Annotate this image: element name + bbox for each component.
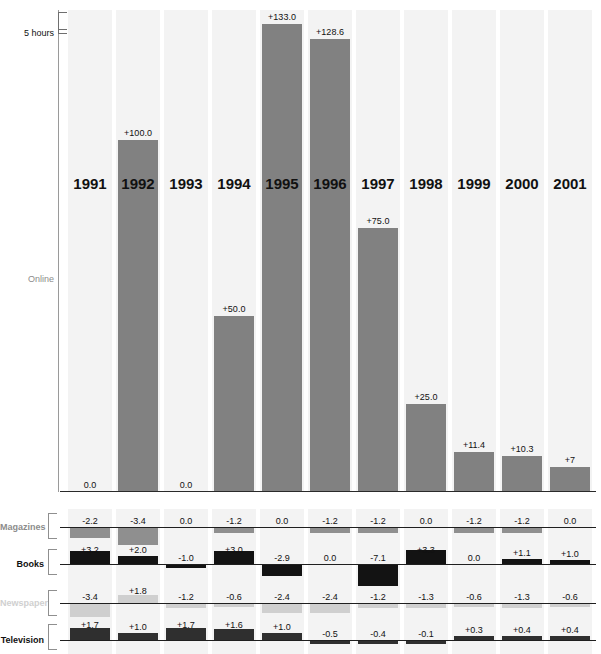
bar-online-1998[interactable] [406,404,446,492]
value-label-television-2000: +0.4 [498,625,546,635]
value-label-books-1994: +3.0 [210,545,258,555]
value-label-books-2000: +1.1 [498,548,546,558]
value-label-newspaper-2000: -1.3 [498,592,546,602]
year-label-2001: 2001 [546,175,594,192]
bar-online-2001[interactable] [550,467,590,492]
value-label-online-1997: +75.0 [354,216,402,226]
row-label-books: Books [0,559,44,569]
bar-magazines-1992[interactable] [118,527,158,545]
year-label-2000: 2000 [498,175,546,192]
year-label-1999: 1999 [450,175,498,192]
value-label-books-1999: 0.0 [450,553,498,563]
zero-line-television [60,640,596,641]
value-label-online-1996: +128.6 [306,27,354,37]
bar-magazines-1991[interactable] [70,527,110,538]
row-bracket-books [48,549,58,575]
value-label-books-1993: -1.0 [162,553,210,563]
year-label-1997: 1997 [354,175,402,192]
axis-line [58,10,59,492]
bar-online-2000[interactable] [502,456,542,492]
value-label-online-2000: +10.3 [498,444,546,454]
bar-newspaper-1992[interactable] [118,595,158,603]
value-label-online-1994: +50.0 [210,304,258,314]
value-label-newspaper-1997: -1.2 [354,592,402,602]
bar-newspaper-1991[interactable] [70,603,110,617]
zero-line-magazines [60,527,596,528]
row-bracket-newspaper [48,590,58,616]
axis-top-label: 5 hours [6,28,54,38]
row-label-magazines: Magazines [0,522,44,532]
value-label-television-1999: +0.3 [450,625,498,635]
row-plot-television: +1.7+1.0+1.7+1.6+1.0-0.5-0.4-0.1+0.3+0.4… [66,620,594,654]
value-label-magazines-1993: 0.0 [162,516,210,526]
row-bracket-television [48,624,58,650]
value-label-magazines-2001: 0.0 [546,516,594,526]
column-background [452,545,496,587]
zero-line-books [60,564,596,565]
value-label-newspaper-1998: -1.3 [402,592,450,602]
value-label-magazines-1998: 0.0 [402,516,450,526]
value-label-newspaper-2001: -0.6 [546,592,594,602]
bar-television-1994[interactable] [214,629,254,640]
online-panel: 5 hours Online 0.0+100.00.0+50.0+133.0+1… [0,0,601,502]
value-label-magazines-2000: -1.2 [498,516,546,526]
bar-online-1995[interactable] [262,24,302,492]
row-bracket-magazines [48,513,58,539]
bar-online-1997[interactable] [358,228,398,492]
value-label-books-2001: +1.0 [546,549,594,559]
value-label-magazines-1992: -3.4 [114,516,162,526]
bar-books-1995[interactable] [262,564,302,576]
bar-newspaper-1996[interactable] [310,603,350,613]
value-label-books-1991: +3.2 [66,545,114,555]
value-label-television-1991: +1.7 [66,620,114,630]
value-label-magazines-1997: -1.2 [354,516,402,526]
column-background [452,10,496,492]
bar-television-1995[interactable] [262,633,302,640]
value-label-television-1992: +1.0 [114,622,162,632]
year-label-1993: 1993 [162,175,210,192]
value-label-online-1995: +133.0 [258,12,306,22]
row-label-newspaper: Newspaper [0,598,44,608]
value-label-books-1995: -2.9 [258,553,306,563]
bar-books-1992[interactable] [118,556,158,564]
column-background [500,10,544,492]
value-label-books-1992: +2.0 [114,545,162,555]
value-label-online-1993: 0.0 [162,480,210,490]
year-label-1992: 1992 [114,175,162,192]
bar-online-1994[interactable] [214,316,254,492]
column-background [548,10,592,492]
bar-online-1996[interactable] [310,39,350,492]
value-label-newspaper-1995: -2.4 [258,592,306,602]
value-label-newspaper-1991: -3.4 [66,592,114,602]
value-label-television-1995: +1.0 [258,622,306,632]
value-label-television-1993: +1.7 [162,620,210,630]
row-label-television: Television [0,635,44,645]
bar-online-1992[interactable] [118,140,158,492]
row-television: Television+1.7+1.0+1.7+1.6+1.0-0.5-0.4-0… [0,620,601,654]
bar-online-1999[interactable] [454,452,494,492]
row-plot-books: +3.2+2.0-1.0+3.0-2.90.0-7.1+3.30.0+1.1+1… [66,545,594,587]
year-label-1994: 1994 [210,175,258,192]
row-magazines: Magazines-2.2-3.40.0-1.20.0-1.2-1.20.0-1… [0,509,601,545]
year-label-1998: 1998 [402,175,450,192]
value-label-newspaper-1993: -1.2 [162,592,210,602]
row-books: Books+3.2+2.0-1.0+3.0-2.90.0-7.1+3.30.0+… [0,545,601,587]
year-label-1996: 1996 [306,175,354,192]
value-label-magazines-1995: 0.0 [258,516,306,526]
value-label-television-2001: +0.4 [546,625,594,635]
column-background [308,545,352,587]
value-label-online-1998: +25.0 [402,392,450,402]
value-label-books-1996: 0.0 [306,553,354,563]
value-label-television-1997: -0.4 [354,629,402,639]
value-label-online-1992: +100.0 [114,128,162,138]
column-background [164,10,208,492]
media-usage-chart: 5 hours Online 0.0+100.00.0+50.0+133.0+1… [0,0,601,654]
bar-television-1992[interactable] [118,633,158,640]
column-background [68,10,112,492]
series-label-online: Online [2,274,54,284]
value-label-books-1997: -7.1 [354,553,402,563]
value-label-television-1998: -0.1 [402,629,450,639]
bar-newspaper-1995[interactable] [262,603,302,613]
online-plot-area: 0.0+100.00.0+50.0+133.0+128.6+75.0+25.0+… [66,10,594,492]
year-label-1995: 1995 [258,175,306,192]
